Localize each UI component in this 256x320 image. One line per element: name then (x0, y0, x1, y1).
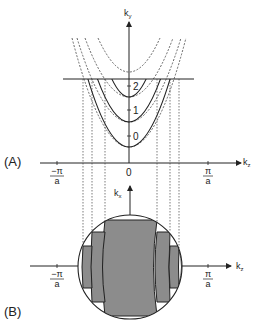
panel-a: ky 2 1 0 kz 0 −π a π a (A) (4, 8, 251, 186)
pi-over-a-label-b: π a (203, 269, 213, 289)
pi-over-a-label-a: π a (203, 166, 213, 186)
slab-band-2-left (82, 246, 92, 288)
kz-axis-label-b: kz (236, 261, 244, 272)
ky-axis-label-a: ky (124, 8, 132, 19)
panel-label-b: (B) (4, 304, 21, 319)
svg-text:a: a (205, 176, 210, 186)
svg-text:a: a (54, 176, 59, 186)
svg-text:−π: −π (51, 269, 62, 279)
band-label-0: 0 (133, 131, 139, 142)
svg-text:a: a (54, 279, 59, 289)
slab-band-2-right (169, 246, 179, 288)
kx-axis-label-b: kx (114, 188, 122, 199)
svg-text:π: π (205, 166, 211, 176)
kz-axis-label-a: kz (243, 157, 251, 168)
band-label-2: 2 (133, 81, 139, 92)
svg-text:π: π (205, 269, 211, 279)
neg-pi-over-a-label-b: −π a (50, 269, 64, 289)
svg-text:a: a (205, 279, 210, 289)
slab-band-0 (102, 220, 157, 316)
fermi-disk-slabs (82, 220, 182, 316)
panel-label-a: (A) (4, 154, 21, 169)
slab-band-1-right (155, 232, 170, 302)
panel-b: kx kz −π a π a (B) (4, 186, 244, 319)
neg-pi-over-a-label-a: −π a (50, 166, 64, 186)
svg-text:−π: −π (51, 166, 62, 176)
slab-band-1-left (91, 232, 106, 302)
diagram-canvas: ky 2 1 0 kz 0 −π a π a (A) (0, 0, 256, 320)
origin-label: 0 (126, 167, 132, 178)
band-label-1: 1 (133, 105, 139, 116)
